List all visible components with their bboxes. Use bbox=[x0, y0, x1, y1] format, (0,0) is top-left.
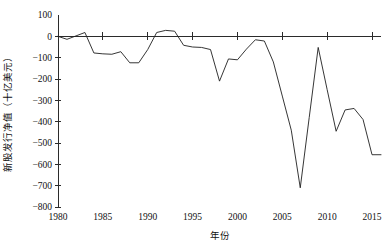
chart-container: 1000−100−200−300−400−500−600−700−800 198… bbox=[0, 0, 392, 247]
y-axis-title: 新股发行净值（十亿美元） bbox=[2, 52, 13, 172]
y-axis-title-group: 新股发行净值（十亿美元） bbox=[0, 0, 392, 247]
